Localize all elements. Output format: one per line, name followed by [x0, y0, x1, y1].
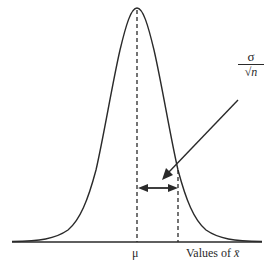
x-axis-label-prefix: Values of	[186, 246, 234, 260]
x-axis-label: Values of x̄	[186, 246, 239, 261]
normal-curve-figure	[0, 0, 273, 269]
pointer-arrow	[162, 100, 238, 180]
sigma-numerator: σ	[238, 50, 264, 63]
double-headed-arrow	[138, 184, 178, 192]
x-bar-symbol: x̄	[234, 246, 239, 260]
sqrt-n-denominator: √n	[238, 66, 264, 79]
mean-label: μ	[132, 246, 138, 261]
standard-error-label: σ √n	[238, 50, 264, 79]
diagram-canvas: σ √n μ Values of x̄	[0, 0, 273, 269]
